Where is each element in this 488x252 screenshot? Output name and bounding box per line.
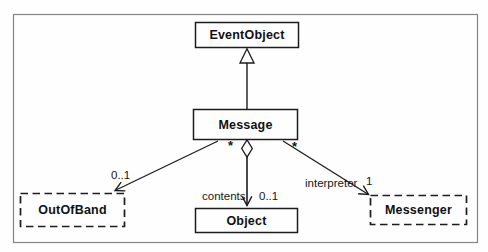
connector-layer <box>0 0 488 252</box>
association-line-message-outofband <box>115 141 218 191</box>
association-line-message-messenger <box>283 141 369 195</box>
class-box-message <box>194 110 298 140</box>
diagram-canvas: EventObject Message OutOfBand Object Mes… <box>0 0 488 252</box>
class-box-outofband <box>21 194 125 227</box>
class-box-messenger <box>371 196 467 225</box>
class-box-eventobject <box>196 23 299 48</box>
aggregation-diamond <box>242 140 253 157</box>
class-box-object <box>196 209 298 233</box>
generalization-triangle-arrowhead <box>240 49 254 63</box>
